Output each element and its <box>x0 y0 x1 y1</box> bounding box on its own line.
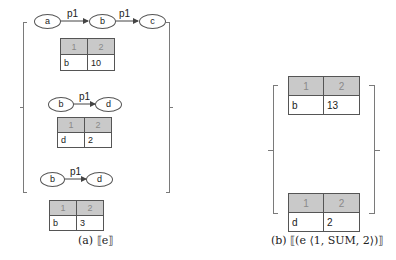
bracket-serif <box>23 192 27 193</box>
result-table: 12 b3 <box>49 200 104 231</box>
graph-node: b <box>89 14 116 29</box>
header-cell: 1 <box>58 118 85 133</box>
graph-node: d <box>95 97 122 112</box>
bracket-tick <box>170 107 173 108</box>
caption-a: (a) ⟦e⟧ <box>78 234 113 247</box>
data-cell: 2 <box>324 213 360 232</box>
header-cell: 2 <box>324 77 360 96</box>
caption-b: (b) ⟦(e ⟨1, SUM, 2⟩)⟧ <box>271 234 383 247</box>
bracket-serif <box>273 85 278 86</box>
edge-label: p1 <box>70 166 81 177</box>
graph-node: a <box>34 14 61 29</box>
edge-label: p1 <box>67 8 78 19</box>
edge-label: p1 <box>119 8 130 19</box>
header-cell: 2 <box>88 39 115 55</box>
data-cell: d <box>58 133 85 148</box>
result-table: 12 b13 <box>288 76 360 115</box>
header-cell: 1 <box>61 39 88 55</box>
bracket-serif <box>23 22 27 23</box>
data-cell: 3 <box>77 216 104 231</box>
data-cell: d <box>289 213 324 232</box>
graph-node: b <box>40 172 65 187</box>
data-cell: b <box>289 96 324 115</box>
data-cell: 2 <box>85 133 112 148</box>
header-cell: 2 <box>324 194 360 213</box>
result-table: 12 d2 <box>57 117 112 148</box>
header-cell: 1 <box>50 201 77 216</box>
data-cell: b <box>50 216 77 231</box>
header-cell: 2 <box>77 201 104 216</box>
header-cell: 1 <box>289 77 324 96</box>
result-table: 12 d2 <box>288 193 360 232</box>
edge-label: p1 <box>79 91 90 102</box>
bracket-serif <box>273 213 278 214</box>
left-bracket <box>23 22 24 193</box>
data-cell: 13 <box>324 96 360 115</box>
data-cell: 10 <box>88 55 115 71</box>
bracket-serif <box>166 192 170 193</box>
bracket-tick <box>375 150 380 151</box>
bracket-serif <box>369 213 374 214</box>
graph-node: d <box>86 172 113 187</box>
left-bracket <box>273 85 274 214</box>
graph-node: c <box>139 14 166 29</box>
result-table: 12 b10 <box>60 38 115 71</box>
data-cell: b <box>61 55 88 71</box>
bracket-tick <box>20 107 23 108</box>
bracket-serif <box>166 22 170 23</box>
header-cell: 2 <box>85 118 112 133</box>
bracket-tick <box>268 150 273 151</box>
graph-node: b <box>48 97 74 112</box>
bracket-serif <box>369 85 374 86</box>
header-cell: 1 <box>289 194 324 213</box>
